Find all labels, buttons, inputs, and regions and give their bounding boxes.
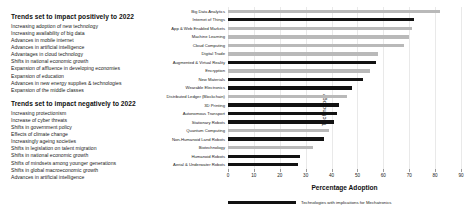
list-item: Increasing adoption of new technology: [11, 23, 164, 30]
negative-trends-title: Trends set to impact negatively to 2022: [11, 100, 164, 108]
list-item: Shifts in global macroeconomic growth: [11, 167, 164, 174]
category-label: Stationary Robots: [192, 120, 225, 125]
bar: [228, 155, 300, 158]
legend-label: Technologies with implications for Mecha…: [301, 200, 392, 205]
bar-row: Biotechnology: [228, 143, 461, 152]
bar: [228, 52, 378, 55]
x-tick-label: 50: [355, 173, 360, 178]
bar-row: App & Web Enabled Markets: [228, 24, 461, 33]
x-axis-title: Percentage Adoption: [228, 184, 461, 191]
bar-row: Internet of Things: [228, 16, 461, 25]
x-tick-label: 10: [251, 173, 256, 178]
bar-row: Autonomous Transport: [228, 109, 461, 118]
x-tick-label: 0: [227, 173, 230, 178]
bar: [228, 163, 298, 166]
bar-row: Machine Learning: [228, 33, 461, 42]
bar-row: Stationary Robots: [228, 118, 461, 127]
x-tick: [228, 169, 229, 172]
legend-swatch: [228, 201, 296, 204]
x-tick: [461, 169, 462, 172]
bar: [228, 35, 409, 38]
bar: [228, 78, 363, 81]
x-tick: [332, 169, 333, 172]
x-tick-label: 30: [303, 173, 308, 178]
x-tick: [383, 169, 384, 172]
category-label: Big Data Analytics: [191, 9, 225, 14]
list-item: Advantages in cloud technology: [11, 51, 164, 58]
list-item: Expansion of the middle classes: [11, 87, 164, 94]
category-label: 3D Printing: [204, 103, 225, 108]
negative-trends-list: Increasing protectionism Increase of cyb…: [11, 110, 164, 180]
category-label: Distributed Ledger (Blockchain): [167, 94, 225, 99]
bar: [228, 86, 352, 89]
list-item: Advances in mobile internet: [11, 37, 164, 44]
list-item: Increasing protectionism: [11, 110, 164, 117]
list-item: Increasing availability of big data: [11, 30, 164, 37]
bar-chart: Technology Big Data AnalyticsInternet of…: [168, 0, 467, 219]
x-axis: 0102030405060708090: [228, 169, 461, 183]
list-item: Shifts in government policy: [11, 124, 164, 131]
category-label: Non-Humanoid Land Robots: [172, 137, 225, 142]
bar: [228, 146, 313, 149]
list-item: Advances in artificial intelligence: [11, 174, 164, 181]
x-tick: [254, 169, 255, 172]
x-tick: [306, 169, 307, 172]
category-label: Cloud Computing: [193, 43, 225, 48]
bar: [228, 18, 414, 21]
category-label: App & Web Enabled Markets: [171, 26, 225, 31]
x-tick: [409, 169, 410, 172]
positive-trends-title: Trends set to impact positively to 2022: [11, 13, 164, 21]
bar: [228, 112, 337, 115]
bar-row: New Materials: [228, 75, 461, 84]
bar: [228, 95, 347, 98]
bar-row: Quantum Computing: [228, 126, 461, 135]
list-item: Expansion of affluence in developing eco…: [11, 65, 164, 72]
list-item: Shifts of mindsets among younger generat…: [11, 160, 164, 167]
legend: Technologies with implications for Mecha…: [228, 200, 392, 205]
bar-row: Cloud Computing: [228, 41, 461, 50]
x-tick: [357, 169, 358, 172]
bar: [228, 120, 334, 123]
list-item: Shifts in national economic growth: [11, 58, 164, 65]
bar-row: Wearable Electronics: [228, 84, 461, 93]
category-label: Wearable Electronics: [186, 85, 226, 90]
figure-root: Trends set to impact positively to 2022 …: [0, 0, 467, 219]
bar: [228, 61, 376, 64]
list-item: Increase of cyber threats: [11, 117, 164, 124]
plot-area: Big Data AnalyticsInternet of ThingsApp …: [228, 7, 461, 169]
positive-trends-block: Trends set to impact positively to 2022 …: [11, 13, 164, 94]
list-item: Shifts in legislation on talent migratio…: [11, 145, 164, 152]
category-label: Quantum Computing: [186, 128, 225, 133]
bar-row: Distributed Ledger (Blockchain): [228, 92, 461, 101]
category-label: Digital Trade: [201, 51, 225, 56]
x-tick-label: 80: [433, 173, 438, 178]
bar-row: Big Data Analytics: [228, 7, 461, 16]
bar-row: Non-Humanoid Land Robots: [228, 135, 461, 144]
list-item: Shifts in national economic growth: [11, 152, 164, 159]
bar: [228, 10, 440, 13]
bar-row: 3D Printing: [228, 101, 461, 110]
list-item: Advances in artificial intelligence: [11, 44, 164, 51]
negative-trends-block: Trends set to impact negatively to 2022 …: [11, 100, 164, 181]
category-label: Aerial & Underwater Robots: [173, 162, 225, 167]
x-axis-line: [228, 169, 461, 170]
x-tick: [280, 169, 281, 172]
x-tick: [435, 169, 436, 172]
list-item: Effects of climate change: [11, 131, 164, 138]
category-label: Biotechnology: [199, 145, 225, 150]
category-label: Autonomous Transport: [183, 111, 225, 116]
list-item: Advances in new energy supplies & techno…: [11, 80, 164, 87]
category-label: Encryption: [205, 68, 225, 73]
bar-row: Digital Trade: [228, 50, 461, 59]
list-item: Expansion of education: [11, 73, 164, 80]
list-item: Increasingly ageing societies: [11, 138, 164, 145]
bar-row: Encryption: [228, 67, 461, 76]
bar-row: Aerial & Underwater Robots: [228, 160, 461, 169]
bar: [228, 137, 324, 140]
category-label: New Materials: [198, 77, 225, 82]
bar-row: Augmented & Virtual Reality: [228, 58, 461, 67]
gridline: [461, 7, 462, 169]
category-label: Humanoid Robots: [191, 154, 225, 159]
category-label: Augmented & Virtual Reality: [173, 60, 225, 65]
bar-row: Humanoid Robots: [228, 152, 461, 161]
